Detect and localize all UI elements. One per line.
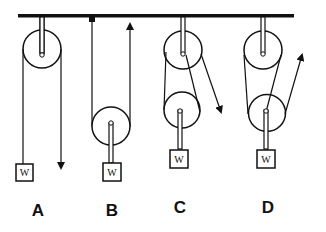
axle <box>40 53 44 57</box>
pulley-hanger <box>264 110 268 149</box>
rope <box>186 55 200 112</box>
weight-label: W <box>107 167 117 178</box>
pulley-hanger <box>261 17 265 53</box>
axle <box>181 52 185 56</box>
axle <box>109 121 113 125</box>
ceiling-bar <box>18 14 294 18</box>
system-b: W B <box>89 16 130 220</box>
system-c: W C <box>164 17 221 217</box>
pulley-hanger <box>178 110 182 149</box>
axle <box>261 52 265 56</box>
weight-label: W <box>20 167 30 178</box>
axle <box>178 109 182 113</box>
pull-arrow <box>285 55 302 114</box>
pulley-diagram: W A W B W C <box>0 0 326 232</box>
axle <box>264 109 268 113</box>
pulley-hanger <box>109 123 113 163</box>
weight-label: W <box>174 154 184 165</box>
pull-arrow <box>201 54 221 112</box>
pulley-hanger <box>181 17 185 53</box>
system-label: A <box>32 201 44 220</box>
system-d: W D <box>244 17 302 217</box>
weight-label: W <box>261 154 271 165</box>
system-a: W A <box>16 17 61 220</box>
system-label: C <box>174 198 186 217</box>
system-label: B <box>106 201 118 220</box>
system-label: D <box>262 198 274 217</box>
rope <box>244 55 248 114</box>
rope <box>266 55 281 112</box>
